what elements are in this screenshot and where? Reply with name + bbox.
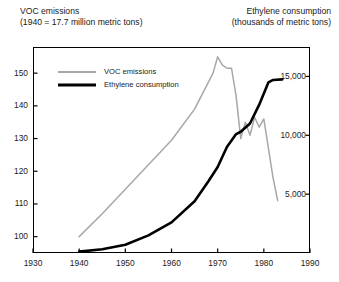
legend-label-voc-emissions: VOC emissions (104, 67, 156, 76)
tick-label-left-110: 110 (1, 198, 28, 208)
plot-svg (0, 0, 339, 282)
tick-label-x-1960: 1960 (155, 258, 189, 268)
chart-container: VOC emissions(1940 = 17.7 million metric… (0, 0, 339, 282)
tick-label-x-1980: 1980 (247, 258, 281, 268)
tick-label-left-150: 150 (1, 68, 28, 78)
tick-label-left-120: 120 (1, 166, 28, 176)
tick-label-left-140: 140 (1, 100, 28, 110)
tick-label-left-130: 130 (1, 133, 28, 143)
tick-label-left-100: 100 (1, 231, 28, 241)
tick-label-right-5000: 5,000 (266, 189, 306, 199)
tick-label-x-1940: 1940 (62, 258, 96, 268)
tick-label-right-10000: 10,000 (266, 130, 306, 140)
tick-label-x-1990: 1990 (293, 258, 327, 268)
tick-label-x-1950: 1950 (108, 258, 142, 268)
tick-label-x-1930: 1930 (16, 258, 50, 268)
tick-label-x-1970: 1970 (201, 258, 235, 268)
tick-label-right-15000: 15,000 (266, 71, 306, 81)
axis-ticks (33, 73, 310, 253)
legend-label-ethylene-consumption: Ethylene consumption (104, 80, 179, 89)
series-line-ethylene-consumption (79, 79, 282, 251)
